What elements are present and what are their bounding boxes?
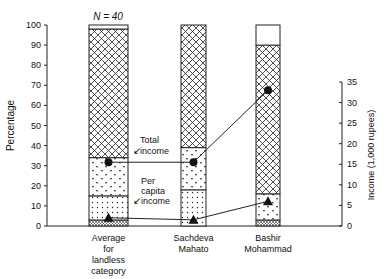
category-label: Sachdeva bbox=[173, 233, 213, 243]
right-tick-label: 5 bbox=[347, 200, 352, 210]
bar-segment-fine bbox=[256, 220, 280, 226]
total-income-label: Total bbox=[140, 135, 159, 145]
left-tick-label: 50 bbox=[31, 121, 41, 131]
right-tick-label: 30 bbox=[347, 98, 357, 108]
left-tick-label: 0 bbox=[36, 221, 41, 231]
total-income-marker bbox=[105, 158, 113, 166]
right-tick-label: 15 bbox=[347, 159, 357, 169]
category-label: Mohammad bbox=[244, 244, 292, 254]
category-label: landless bbox=[92, 255, 126, 265]
left-tick-label: 90 bbox=[31, 40, 41, 50]
bar-segment-crosshatch bbox=[256, 45, 280, 194]
category-label: Average bbox=[92, 233, 125, 243]
left-tick-label: 100 bbox=[26, 20, 41, 30]
bar-segment-crosshatch bbox=[89, 29, 128, 158]
bars bbox=[89, 25, 280, 226]
right-tick-label: 10 bbox=[347, 180, 357, 190]
per-capita-income-label: income bbox=[141, 196, 170, 206]
right-tick-label: 0 bbox=[347, 221, 352, 231]
total-income-marker bbox=[190, 158, 198, 166]
left-tick-label: 30 bbox=[31, 161, 41, 171]
total-income-label: income bbox=[140, 146, 169, 156]
bar-segment-blank bbox=[89, 25, 128, 29]
left-tick-label: 70 bbox=[31, 80, 41, 90]
right-tick-label: 20 bbox=[347, 139, 357, 149]
per-capita-income-label: Per bbox=[141, 176, 155, 186]
total-income-marker bbox=[264, 86, 272, 94]
right-tick-label: 35 bbox=[347, 77, 357, 87]
left-tick-label: 80 bbox=[31, 60, 41, 70]
n-annotation: N = 40 bbox=[93, 11, 123, 22]
category-label: Bashir bbox=[255, 233, 281, 243]
left-tick-label: 20 bbox=[31, 181, 41, 191]
right-tick-label: 25 bbox=[347, 118, 357, 128]
chart: 0102030405060708090100Percentage05101520… bbox=[0, 0, 387, 279]
bar-segment-crosshatch bbox=[181, 25, 206, 148]
left-tick-label: 40 bbox=[31, 141, 41, 151]
left-tick-label: 60 bbox=[31, 100, 41, 110]
per-capita-income-label: capita bbox=[141, 186, 165, 196]
left-axis-title: Percentage bbox=[5, 99, 16, 151]
bar-segment-blank bbox=[256, 25, 280, 45]
category-label: Mahato bbox=[178, 244, 208, 254]
category-label: for bbox=[103, 244, 114, 254]
category-label: category bbox=[91, 266, 126, 276]
arrow-icon: ↙ bbox=[133, 145, 141, 156]
arrow-icon: ↙ bbox=[133, 195, 141, 206]
right-axis-title: Income (1,000 rupees) bbox=[366, 110, 376, 201]
left-tick-label: 10 bbox=[31, 201, 41, 211]
